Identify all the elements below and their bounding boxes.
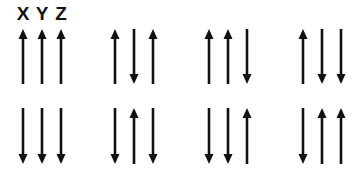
- arrow-down-icon: [299, 108, 308, 164]
- arrow-down-icon: [243, 29, 252, 84]
- arrow-down-icon: [19, 108, 28, 164]
- arrow-up-icon: [205, 29, 214, 84]
- arrow-up-icon: [130, 108, 139, 164]
- arrow-up-icon: [299, 29, 308, 84]
- arrow-up-icon: [111, 29, 120, 84]
- arrow-down-icon: [130, 29, 139, 84]
- arrow-down-icon: [111, 108, 120, 164]
- arrow-up-icon: [243, 108, 252, 164]
- arrow-down-icon: [205, 108, 214, 164]
- arrow-grid: [0, 0, 362, 174]
- arrow-down-icon: [57, 108, 66, 164]
- arrow-up-icon: [149, 29, 158, 84]
- arrow-up-icon: [337, 108, 346, 164]
- arrow-down-icon: [337, 29, 346, 84]
- spin-configuration-diagram: X Y Z: [0, 0, 362, 174]
- arrow-down-icon: [149, 108, 158, 164]
- arrow-down-icon: [318, 29, 327, 84]
- arrow-down-icon: [224, 108, 233, 164]
- arrow-up-icon: [224, 29, 233, 84]
- arrow-up-icon: [19, 29, 28, 84]
- arrow-down-icon: [38, 108, 47, 164]
- arrow-up-icon: [318, 108, 327, 164]
- arrow-up-icon: [57, 29, 66, 84]
- arrow-up-icon: [38, 29, 47, 84]
